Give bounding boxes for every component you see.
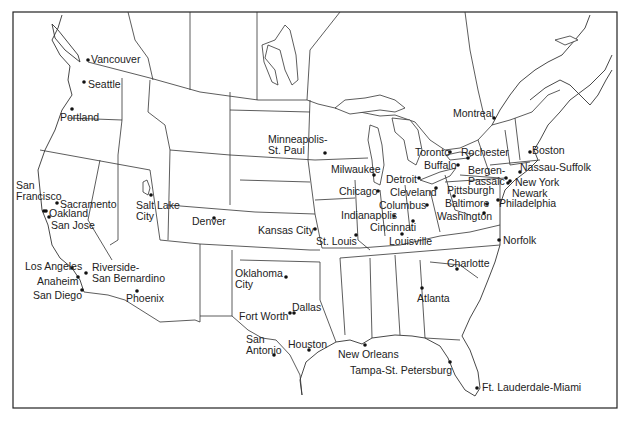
lake-winnipeg (262, 25, 298, 85)
city-label-indianapolis: Indianapolis (341, 210, 397, 221)
city-label-st-louis: St. Louis (316, 236, 357, 247)
city-label-montreal: Montreal (453, 108, 494, 119)
ontario-quebec-border (465, 12, 485, 120)
city-label-tampa-st-petersburg: Tampa-St. Petersburg (350, 365, 452, 376)
anticosti-island (555, 36, 578, 45)
city-label-anaheim: Anaheim (37, 276, 78, 287)
vancouver-island (52, 24, 80, 62)
manitoba-ontario-border (307, 12, 340, 100)
city-marker-new-orleans (363, 343, 367, 347)
city-label-boston: Boston (532, 145, 565, 156)
city-label-charlotte: Charlotte (447, 258, 490, 269)
bc-alberta-border (128, 12, 153, 80)
city-label-cincinnati: Cincinnati (370, 222, 416, 233)
city-marker-oklahoma-city (284, 275, 288, 279)
city-marker-salt-lake-city (149, 193, 153, 197)
city-marker-ft-lauderdale-miami (475, 386, 479, 390)
city-label-salt-lake-city: Salt Lake City (136, 200, 180, 222)
city-marker-detroit (417, 176, 421, 180)
great-salt-lake (143, 180, 150, 195)
city-label-riverside-san-bernardino: Riverside- San Bernardino (92, 262, 165, 284)
city-label-chicago: Chicago (339, 186, 378, 197)
city-label-denver: Denver (192, 216, 226, 227)
city-marker-riverside-san-bernardino (84, 271, 88, 275)
st-lawrence-coast (492, 15, 590, 125)
city-marker-oakland (44, 209, 48, 213)
city-label-san-francisco: San Francisco (16, 180, 62, 202)
city-label-san-antonio: San Antonio (246, 334, 282, 356)
city-label-toronto: Toronto (415, 147, 450, 158)
city-marker-newark (506, 181, 510, 185)
city-marker-norfolk (497, 238, 501, 242)
city-label-milwaukee: Milwaukee (331, 164, 381, 175)
city-label-san-diego: San Diego (33, 290, 82, 301)
city-label-buffalo: Buffalo (424, 160, 457, 171)
city-label-portland: Portland (60, 112, 99, 123)
city-label-phoenix: Phoenix (126, 293, 164, 304)
city-label-norfolk: Norfolk (503, 235, 536, 246)
city-marker-seattle (82, 80, 86, 84)
city-label-oklahoma-city: Oklahoma City (235, 268, 283, 290)
city-label-kansas-city: Kansas City (258, 225, 314, 236)
city-label-san-jose: San Jose (51, 220, 95, 231)
city-label-nassau-suffolk: Nassau-Suffolk (520, 162, 591, 173)
city-label-baltimore: Baltimore (445, 198, 489, 209)
city-label-atlanta: Atlanta (417, 293, 450, 304)
city-label-vancouver: Vancouver (91, 54, 140, 65)
city-label-louisville: Louisville (389, 236, 432, 247)
city-marker-atlanta (420, 286, 424, 290)
city-label-dallas: Dallas (292, 302, 321, 313)
city-label-ft-lauderdale-miami: Ft. Lauderdale-Miami (482, 382, 581, 393)
city-label-new-orleans: New Orleans (338, 349, 399, 360)
city-marker-vancouver (86, 58, 90, 62)
lake-michigan (368, 125, 384, 185)
city-label-oakland: Oakland (49, 208, 88, 219)
city-label-cleveland: Cleveland (390, 187, 437, 198)
city-label-seattle: Seattle (88, 79, 121, 90)
city-label-fort-worth: Fort Worth (239, 311, 288, 322)
lake-superior (335, 95, 405, 114)
city-label-pittsburgh: Pittsburgh (447, 185, 494, 196)
city-label-detroit: Detroit (386, 174, 417, 185)
city-label-houston: Houston (288, 339, 327, 350)
city-label-minneapolis-st-paul: Minneapolis- St. Paul (268, 134, 328, 156)
city-label-los-angeles: Los Angeles (25, 261, 82, 272)
city-label-washington: Washington (437, 211, 492, 222)
city-label-rochester: Rochester (461, 147, 509, 158)
city-label-philadelphia: Philadelphia (499, 198, 556, 209)
